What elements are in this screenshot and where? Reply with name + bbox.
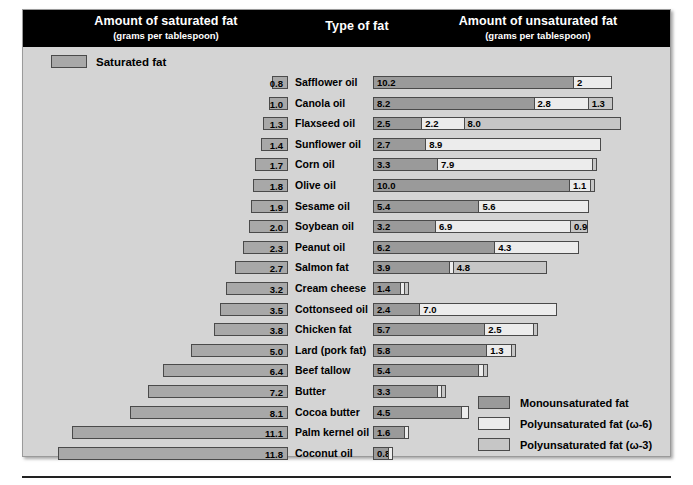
monounsaturated-segment: 1.6 — [373, 426, 405, 439]
omega3-segment — [533, 323, 538, 336]
unsaturated-fat-bar: 5.45.6 — [373, 200, 588, 213]
monounsaturated-segment-value: 2.5 — [377, 118, 390, 129]
chart-body: Saturated fat 0.8Safflower oil10.221.0Ca… — [23, 47, 670, 456]
omega6-segment: 2.8 — [534, 97, 589, 110]
monounsaturated-segment-value: 5.8 — [377, 345, 390, 356]
omega6-segment: 1.1 — [569, 179, 591, 192]
unsaturated-fat-bar: 5.81.3 — [373, 344, 515, 357]
monounsaturated-segment: 8.2 — [373, 97, 535, 110]
unsaturated-fat-bar: 3.3 — [373, 385, 445, 398]
monounsaturated-segment-value: 5.4 — [377, 365, 390, 376]
omega3-segment — [441, 385, 446, 398]
unsaturated-fat-bar: 3.94.8 — [373, 261, 546, 274]
table-row: 1.3Flaxseed oil2.52.28.0 — [23, 114, 670, 134]
unsaturated-fat-bar: 2.47.0 — [373, 303, 556, 316]
table-row: 0.8Safflower oil10.22 — [23, 73, 670, 93]
omega3-segment-value: 4.8 — [457, 262, 470, 273]
saturated-fat-value: 5.0 — [270, 345, 283, 358]
legend-swatch-mono-icon — [478, 396, 510, 409]
unsaturated-fat-bar: 2.78.9 — [373, 138, 600, 151]
saturated-fat-value: 11.1 — [265, 427, 283, 440]
unsaturated-fat-bar: 2.52.28.0 — [373, 117, 620, 130]
saturated-fat-value: 2.7 — [270, 262, 283, 275]
omega6-segment: 5.6 — [478, 200, 588, 213]
table-row: 5.0Lard (pork fat)5.81.3 — [23, 341, 670, 361]
table-row: 1.8Olive oil10.01.1 — [23, 176, 670, 196]
saturated-fat-bar: 1.4 — [261, 138, 288, 151]
saturated-fat-value: 3.8 — [270, 324, 283, 337]
omega3-segment: 0.9 — [570, 220, 588, 233]
saturated-fat-value: 3.2 — [270, 283, 283, 296]
omega3-segment — [483, 364, 488, 377]
saturated-fat-bar: 8.1 — [130, 406, 288, 419]
unsaturated-fat-bar: 1.4 — [373, 282, 408, 295]
legend-item-label: Polyunsaturated fat (ω-6) — [520, 418, 652, 430]
monounsaturated-segment-value: 8.2 — [377, 98, 390, 109]
saturated-fat-bar: 2.3 — [243, 241, 288, 254]
saturated-fat-bar: 3.8 — [214, 323, 288, 336]
omega6-segment — [461, 406, 469, 419]
monounsaturated-segment: 3.9 — [373, 261, 450, 274]
saturated-fat-value: 1.4 — [270, 139, 283, 152]
header-type: Type of fat — [301, 19, 413, 34]
omega6-segment-value: 2 — [577, 77, 582, 88]
saturated-fat-bar: 7.2 — [148, 385, 288, 398]
monounsaturated-segment: 2.5 — [373, 117, 422, 130]
unsaturated-fat-bar: 10.01.1 — [373, 179, 594, 192]
omega6-segment: 2 — [573, 76, 612, 89]
saturated-fat-key: Saturated fat — [51, 55, 166, 68]
omega6-segment — [388, 447, 393, 460]
unsaturated-fat-bar: 1.6 — [373, 426, 408, 439]
omega6-segment: 7.0 — [419, 303, 557, 316]
saturated-fat-value: 2.0 — [270, 221, 283, 234]
table-row: 3.8Chicken fat5.72.5 — [23, 320, 670, 340]
monounsaturated-segment-value: 3.3 — [377, 386, 390, 397]
omega6-segment-value: 7.0 — [423, 304, 436, 315]
omega3-segment — [592, 158, 597, 171]
omega6-segment-value: 7.9 — [441, 159, 454, 170]
omega3-segment: 8.0 — [464, 117, 622, 130]
saturated-fat-value: 0.8 — [270, 77, 283, 90]
unsaturated-fat-bar: 5.4 — [373, 364, 487, 377]
omega3-segment — [404, 282, 409, 295]
omega6-segment: 6.9 — [435, 220, 571, 233]
omega6-segment-value: 2.2 — [425, 118, 438, 129]
monounsaturated-segment-value: 3.3 — [377, 159, 390, 170]
saturated-fat-value: 6.4 — [270, 365, 283, 378]
table-row: 2.0Soybean oil3.26.90.9 — [23, 217, 670, 237]
monounsaturated-segment: 2.7 — [373, 138, 426, 151]
legend-item: Monounsaturated fat — [478, 392, 668, 413]
table-row: 2.7Salmon fat3.94.8 — [23, 258, 670, 278]
omega3-segment: 4.8 — [453, 261, 548, 274]
header-unsaturated: Amount of unsaturated fat (grams per tab… — [409, 14, 667, 42]
saturated-fat-value: 1.9 — [270, 201, 283, 214]
monounsaturated-segment-value: 3.9 — [377, 262, 390, 273]
saturated-fat-value: 3.5 — [270, 304, 283, 317]
legend-swatch-o3-icon — [478, 438, 510, 451]
omega6-segment — [404, 426, 409, 439]
monounsaturated-segment-value: 10.0 — [377, 180, 396, 191]
saturated-fat-bar: 1.3 — [263, 117, 288, 130]
saturated-fat-value: 11.8 — [265, 448, 283, 461]
table-row: 1.4Sunflower oil2.78.9 — [23, 135, 670, 155]
saturated-fat-bar: 2.0 — [249, 220, 288, 233]
omega6-segment-value: 1.1 — [573, 180, 586, 191]
saturated-fat-bar: 3.2 — [226, 282, 288, 295]
saturated-fat-bar: 2.7 — [235, 261, 288, 274]
omega3-segment-value: 8.0 — [468, 118, 481, 129]
chart-root: Amount of saturated fat (grams per table… — [0, 0, 693, 485]
saturated-fat-value: 2.3 — [270, 242, 283, 255]
saturated-fat-bar: 1.0 — [269, 97, 289, 110]
unsaturated-fat-bar: 8.22.81.3 — [373, 97, 612, 110]
unsaturated-fat-bar: 3.26.90.9 — [373, 220, 587, 233]
monounsaturated-segment: 5.8 — [373, 344, 487, 357]
omega3-segment: 1.3 — [588, 97, 614, 110]
saturated-fat-bar: 1.7 — [255, 158, 288, 171]
monounsaturated-segment-value: 3.2 — [377, 221, 390, 232]
saturated-fat-bar: 5.0 — [191, 344, 289, 357]
monounsaturated-segment: 5.4 — [373, 200, 479, 213]
saturated-fat-value: 1.3 — [270, 118, 283, 131]
monounsaturated-segment: 5.7 — [373, 323, 485, 336]
saturated-fat-value: 1.8 — [270, 180, 283, 193]
table-row: 1.7Corn oil3.37.9 — [23, 155, 670, 175]
